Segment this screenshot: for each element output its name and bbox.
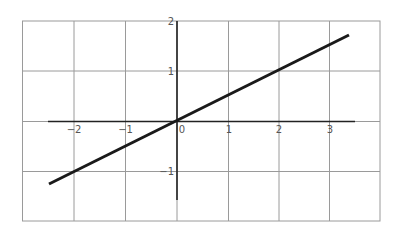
x-tick-label: 2 xyxy=(276,124,282,135)
data-line-series xyxy=(49,35,349,184)
y-tick-label: −1 xyxy=(159,166,174,177)
x-tick-label: 3 xyxy=(327,124,333,135)
y-tick-label: 1 xyxy=(168,66,174,77)
x-tick-label: 1 xyxy=(226,124,232,135)
x-tick-label: 0 xyxy=(179,124,185,135)
y-tick-label: 2 xyxy=(168,16,174,27)
x-tick-label: −1 xyxy=(118,124,133,135)
x-tick-label: −2 xyxy=(67,124,82,135)
line-chart: −2 −1 0 1 2 3 2 1 −1 xyxy=(0,0,398,233)
